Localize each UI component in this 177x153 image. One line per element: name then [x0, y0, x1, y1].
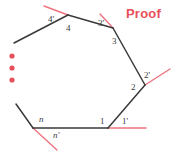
interior-angle-3: 3 [112, 37, 117, 46]
polygon-proof-figure: Proof 4321n4'3'2'1'n' [0, 0, 177, 153]
exterior-angle-n-prime: n' [53, 131, 59, 140]
interior-angle-1: 1 [100, 117, 105, 126]
proof-title: Proof [126, 6, 161, 21]
polygon-edges-group [14, 15, 145, 128]
exterior-angle-1-prime: 1' [122, 117, 128, 126]
exterior-angle-2-prime: 2' [144, 71, 150, 80]
edge-n-open [16, 104, 33, 128]
exterior-angle-4-prime: 4' [48, 15, 54, 24]
ellipsis-dot-3 [9, 77, 14, 82]
ellipsis-dot-1 [9, 53, 14, 58]
edge-open-to-4 [14, 15, 68, 43]
interior-angle-2: 2 [131, 83, 136, 92]
interior-angle-n: n [39, 115, 44, 124]
figure-canvas [0, 0, 177, 153]
edge-3-to-2 [113, 28, 145, 85]
ellipsis-dots-group [9, 53, 14, 82]
exterior-angle-3-prime: 3' [98, 19, 104, 28]
interior-angle-4: 4 [66, 24, 71, 33]
ellipsis-dot-2 [9, 65, 14, 70]
